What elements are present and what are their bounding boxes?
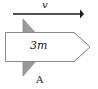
wedge-label: A — [36, 75, 43, 85]
figure-canvas — [0, 0, 98, 89]
velocity-arrow-icon — [13, 10, 84, 19]
block-mass-label: 3m — [30, 40, 47, 51]
arrow-head — [80, 10, 84, 19]
block-shape-overlay — [6, 33, 91, 62]
physics-figure: v 3m A — [0, 0, 98, 89]
velocity-label: v — [42, 0, 48, 10]
